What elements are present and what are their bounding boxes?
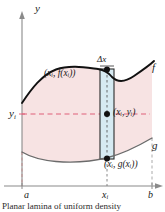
curve-f-label: f	[152, 62, 155, 73]
curve-g-label: g	[152, 140, 158, 151]
figure-caption: Planar lamina of uniform density	[2, 202, 121, 211]
x-axis-label-a: a	[24, 190, 29, 200]
y-axis-label: y	[35, 3, 40, 14]
delta-x-label: Δx	[97, 55, 106, 64]
x-i-subscript: i	[106, 193, 108, 200]
figure-canvas	[0, 0, 165, 212]
y-axis-arrow	[19, 11, 25, 19]
point-lower-label: (xᵢ, g(xᵢ))	[104, 160, 138, 170]
y-i-subscript: i	[14, 113, 16, 120]
point-upper-label: (xᵢ, f(xᵢ))	[44, 69, 75, 79]
point-mid-label: (xᵢ, yᵢ)	[113, 108, 136, 118]
point-upper-marker	[104, 67, 110, 73]
x-axis-arrow	[155, 183, 163, 189]
x-axis-label-b: b	[148, 190, 153, 200]
lamina-figure: y yi f g Δx (xᵢ, f(xᵢ)) (xᵢ, yᵢ) (xᵢ, g(…	[0, 0, 165, 212]
x-axis-label-xi: xi	[102, 190, 108, 201]
point-mid-marker	[104, 111, 110, 117]
y-i-tick-label: yi	[9, 108, 16, 120]
